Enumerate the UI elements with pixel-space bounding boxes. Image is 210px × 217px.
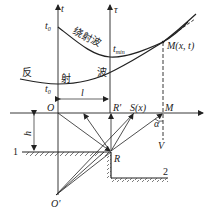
tau-axis-label: τ [114,4,118,15]
point-O-label: O [47,102,54,113]
reflection-label-1: 反 [22,67,32,78]
l-label: l [81,87,84,98]
reflection-label-3: 波 [97,66,107,78]
step-wall-hatch [107,152,111,178]
h-label: h [22,131,33,136]
point-S-label: S(x) [130,102,147,114]
t0-upper-label: t0 [45,20,51,32]
tmin-label: tmin [113,43,125,55]
point-R-label: R [113,153,120,164]
ray-O-prime-to-mid [56,152,104,195]
point-M-label: M [164,102,174,113]
ray-O-to-R [58,113,110,151]
layer-1-label: 1 [13,146,18,157]
diagram-canvas: t τ t0 t0 绕射波 反 射 波 tmin M(x, t) l O R' … [0,0,210,217]
V-label: V [158,140,166,151]
point-O-prime-label: O' [51,198,61,209]
point-M-xt-label: M(x, t) [166,40,195,52]
ray-R-to-surface [84,114,110,151]
reflection-label-2: 射 [61,73,71,84]
diffraction-wave-label: 绕射波 [71,24,103,49]
layer-2-hatch [111,178,168,182]
t0-lower-label: t0 [45,83,51,95]
point-R-prime-label: R' [112,102,122,113]
alpha-label: α [154,118,160,129]
layer-2-label: 2 [163,166,168,177]
layer-1-hatch [26,152,111,156]
t-axis-label: t [61,3,64,14]
ray-R-to-S [111,114,133,151]
ray-O-prime-to-R [56,152,111,195]
